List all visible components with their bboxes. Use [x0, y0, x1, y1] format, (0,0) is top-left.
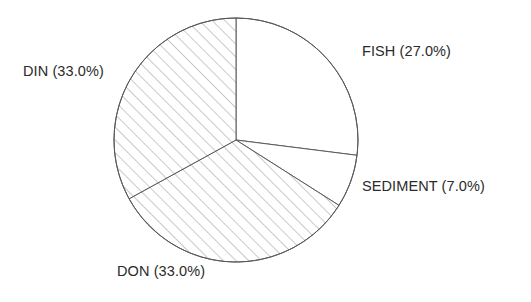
pie-label-sediment: SEDIMENT (7.0%) — [362, 178, 485, 194]
pie-chart-figure — [0, 0, 531, 302]
pie-label-don: DON (33.0%) — [117, 263, 205, 279]
pie-label-din: DIN (33.0%) — [23, 63, 104, 79]
pie-label-fish: FISH (27.0%) — [362, 43, 451, 59]
